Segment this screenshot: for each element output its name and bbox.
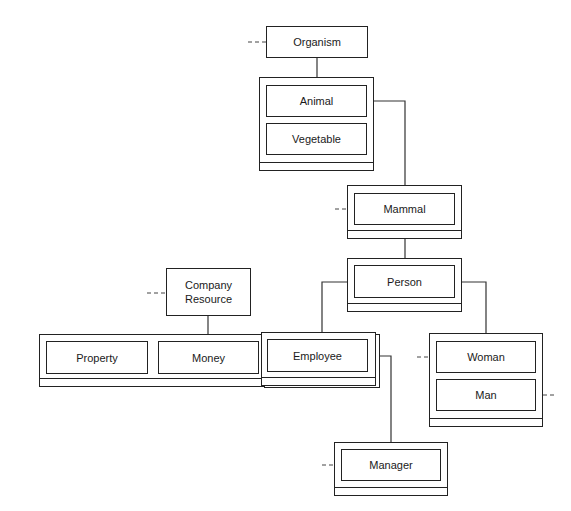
group-band: [348, 303, 461, 304]
node-label: Vegetable: [292, 132, 341, 146]
node-organism: Organism: [266, 26, 368, 58]
node-label: Organism: [293, 35, 341, 49]
node-label: Animal: [300, 94, 334, 108]
group-band: [262, 377, 375, 378]
node-man: Man: [436, 379, 536, 411]
node-property: Property: [46, 341, 148, 374]
group-band: [335, 487, 447, 488]
node-label: Manager: [369, 458, 412, 472]
group-band: [430, 418, 542, 419]
node-label: Money: [192, 351, 225, 365]
node-label: Man: [475, 388, 496, 402]
group-band: [348, 230, 461, 231]
node-person: Person: [354, 265, 455, 298]
group-band: [260, 162, 373, 163]
node-money: Money: [158, 341, 259, 374]
node-company-resource: Company Resource: [166, 268, 251, 316]
node-manager: Manager: [341, 449, 441, 481]
node-label: Person: [387, 275, 422, 289]
node-label: Employee: [293, 349, 342, 363]
node-animal: Animal: [266, 85, 367, 117]
node-woman: Woman: [436, 341, 536, 373]
node-vegetable: Vegetable: [266, 123, 367, 155]
node-employee: Employee: [267, 339, 368, 372]
node-label: Property: [76, 351, 118, 365]
node-mammal: Mammal: [354, 193, 455, 225]
node-label: Company Resource: [179, 278, 239, 306]
node-label: Woman: [467, 350, 505, 364]
node-label: Mammal: [383, 202, 425, 216]
